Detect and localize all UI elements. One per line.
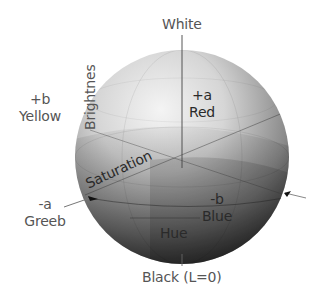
label-minus-b-name: Blue xyxy=(195,208,239,224)
label-plus-b: +b Yellow xyxy=(12,91,68,124)
label-plus-b-sign: +b xyxy=(12,91,68,107)
label-minus-b: -b Blue xyxy=(195,191,239,224)
label-minus-b-sign: -b xyxy=(195,191,239,207)
color-sphere-diagram: White +b Yellow Brightnes +a Red Saturat… xyxy=(0,0,329,296)
label-brightness: Brightnes xyxy=(82,65,98,130)
label-plus-a-name: Red xyxy=(182,104,222,120)
label-minus-a-name: Greeb xyxy=(20,213,70,229)
label-minus-a: -a Greeb xyxy=(20,196,70,229)
label-plus-a-sign: +a xyxy=(182,87,222,103)
label-plus-b-name: Yellow xyxy=(12,108,68,124)
label-minus-a-sign: -a xyxy=(20,196,70,212)
label-hue: Hue xyxy=(160,225,187,241)
sphere-graphic xyxy=(0,0,329,296)
label-plus-a: +a Red xyxy=(182,87,222,120)
label-white: White xyxy=(162,16,202,32)
label-black: Black (L=0) xyxy=(142,269,222,285)
